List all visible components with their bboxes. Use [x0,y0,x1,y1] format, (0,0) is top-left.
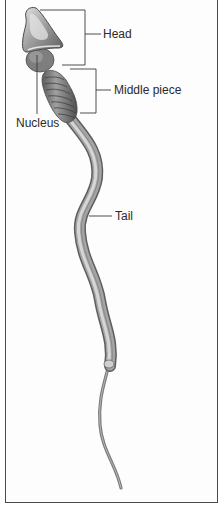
head-body [23,7,63,52]
label-nucleus: Nucleus [16,117,59,129]
sperm-cell-illustration [0,0,224,508]
label-middle-piece: Middle piece [114,84,181,96]
middle-piece-body [42,70,77,122]
label-head: Head [103,28,132,40]
label-tail: Tail [115,210,133,222]
tail-end-piece [100,368,121,488]
tail-principal-piece [69,118,115,368]
